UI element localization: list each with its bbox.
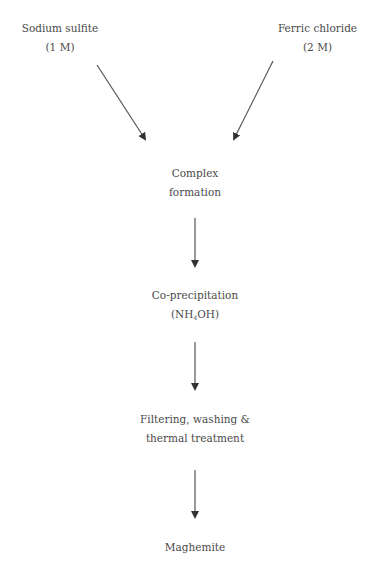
input-concentration: (1 M)	[10, 38, 110, 57]
step-line: Complex	[145, 164, 245, 183]
step-co-precipitation: Co-precipitation (NH4OH)	[135, 286, 255, 327]
step-line-reagent: (NH4OH)	[135, 305, 255, 327]
input-name: Sodium sulfite	[10, 19, 110, 38]
step-line: Co-precipitation	[135, 286, 255, 305]
step-line: formation	[145, 183, 245, 202]
step-complex-formation: Complex formation	[145, 164, 245, 202]
step-maghemite: Maghemite	[145, 538, 245, 557]
input-sodium-sulfite: Sodium sulfite (1 M)	[10, 19, 110, 57]
input-name: Ferric chloride	[265, 19, 370, 38]
step-filtering-washing: Filtering, washing & thermal treatment	[125, 410, 265, 448]
input-ferric-chloride: Ferric chloride (2 M)	[265, 19, 370, 57]
step-line: Filtering, washing &	[125, 410, 265, 429]
step-line: thermal treatment	[125, 429, 265, 448]
step-line: Maghemite	[145, 538, 245, 557]
input-concentration: (2 M)	[265, 38, 370, 57]
arrow-chloride-to-complex	[234, 61, 273, 139]
arrow-sulfite-to-complex	[97, 65, 145, 139]
